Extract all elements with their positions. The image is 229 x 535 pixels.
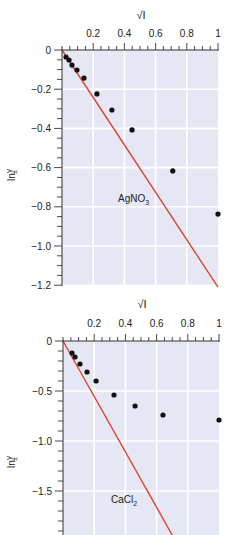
- data-point: [77, 361, 82, 366]
- data-point: [216, 417, 221, 422]
- data-point: [109, 107, 114, 112]
- agno3-panel: 0.20.40.60.810−0.2−0.4−0.6−0.8−1.0−1.2 √…: [4, 9, 221, 291]
- x-axis-title: √I: [137, 298, 146, 310]
- x-tick-label: 0.8: [180, 28, 194, 39]
- y-tick-label: 0: [45, 45, 51, 56]
- data-point: [72, 354, 77, 359]
- x-axis-title: √I: [136, 9, 145, 21]
- y-tick-label: −0.5: [32, 386, 52, 397]
- y-tick-label: −0.4: [31, 123, 51, 134]
- x-tick-label: 0.2: [87, 318, 101, 329]
- x-tick-label: 0.4: [117, 28, 131, 39]
- data-point: [170, 168, 175, 173]
- x-tick-label: 0.2: [86, 28, 100, 39]
- y-tick-label: −1.5: [32, 486, 52, 497]
- y-tick-label: −0.2: [31, 84, 51, 95]
- y-tick-label: −0.6: [31, 162, 51, 173]
- data-point: [129, 127, 134, 132]
- x-tick-label: 1: [216, 318, 222, 329]
- data-point: [69, 62, 74, 67]
- data-point: [84, 369, 89, 374]
- y-tick-label: −1.0: [31, 241, 51, 252]
- y-axis-title: lnγ±: [4, 456, 18, 468]
- x-tick-label: 0.4: [118, 318, 132, 329]
- y-tick-label: −0.8: [31, 201, 51, 212]
- data-point: [66, 57, 71, 62]
- x-tick-label: 0.8: [181, 318, 195, 329]
- y-tick-label: −1.2: [31, 280, 51, 291]
- activity-coefficient-figure: 0.20.40.60.810−0.2−0.4−0.6−0.8−1.0−1.2 √…: [0, 0, 229, 535]
- data-point: [81, 75, 86, 80]
- data-point: [215, 211, 220, 216]
- data-point: [93, 378, 98, 383]
- data-point: [74, 67, 79, 72]
- y-tick-label: −1.0: [32, 436, 52, 447]
- data-point: [111, 392, 116, 397]
- x-tick-label: 1: [215, 28, 221, 39]
- data-point: [132, 403, 137, 408]
- y-axis-title: lnγ±: [4, 169, 18, 181]
- x-tick-label: 0.6: [149, 28, 163, 39]
- cacl2-panel: 0.20.40.60.810−0.5−1.0−1.5 √I CaCl2 lnγ±: [4, 298, 222, 535]
- data-point: [160, 412, 165, 417]
- data-point: [94, 91, 99, 96]
- x-tick-label: 0.6: [150, 318, 164, 329]
- y-tick-label: 0: [46, 336, 52, 347]
